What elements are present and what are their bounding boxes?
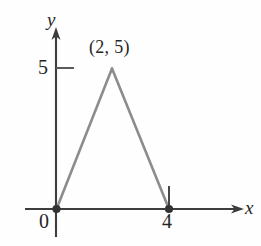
- figure-container: . y x 5 0 4 (2, 5): [0, 0, 261, 246]
- data-point-origin: [52, 205, 60, 213]
- y-axis-label: y: [47, 10, 55, 29]
- x-tick-label-4: 4: [162, 211, 172, 231]
- y-tick-label-5: 5: [38, 57, 48, 77]
- x-tick-label-0: 0: [39, 211, 49, 231]
- curve-segment-rising: [57, 69, 113, 210]
- curve-segment-falling: [112, 69, 169, 210]
- vertex-annotation: (2, 5): [89, 38, 130, 56]
- x-axis-label: x: [245, 198, 253, 217]
